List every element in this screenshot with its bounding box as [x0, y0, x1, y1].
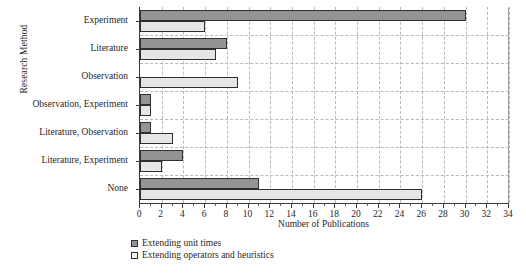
- gridline-horizontal: [140, 63, 509, 64]
- gridline-vertical: [357, 7, 358, 203]
- gridline-horizontal: [140, 175, 509, 176]
- x-tick-label: 16: [308, 209, 318, 219]
- x-minor-tick: [410, 203, 411, 206]
- x-tick-label: 6: [202, 209, 207, 219]
- y-tick-label: None: [107, 183, 128, 193]
- gridline-vertical: [227, 7, 228, 203]
- legend-swatch-light: [131, 252, 138, 259]
- y-tick-label: Literature, Experiment: [41, 155, 128, 165]
- chart-legend: Extending unit times Extending operators…: [131, 238, 274, 261]
- y-tick-mark: [136, 189, 140, 190]
- y-tick-mark: [136, 133, 140, 134]
- x-tick-label: 18: [330, 209, 340, 219]
- bar-extending-operators-and-heuristics: [140, 105, 151, 116]
- bar-extending-unit-times: [140, 38, 227, 49]
- y-tick-label: Literature: [91, 43, 128, 53]
- x-tick-mark: [443, 203, 444, 208]
- x-tick-label: 20: [351, 209, 361, 219]
- x-tick-label: 34: [503, 209, 513, 219]
- x-tick-mark: [291, 203, 292, 208]
- x-minor-tick: [172, 203, 173, 206]
- bar-extending-unit-times: [140, 10, 466, 21]
- y-tick-label: Literature, Observation: [39, 127, 128, 137]
- legend-item-1[interactable]: Extending operators and heuristics: [131, 250, 274, 262]
- gridline-vertical: [162, 7, 163, 203]
- x-minor-tick: [432, 203, 433, 206]
- x-tick-mark: [486, 203, 487, 208]
- gridline-horizontal: [140, 35, 509, 36]
- plot-frame: [140, 7, 509, 203]
- bar-extending-operators-and-heuristics: [140, 161, 162, 172]
- gridline-horizontal: [140, 147, 509, 148]
- bar-extending-unit-times: [140, 178, 259, 189]
- gridline-vertical: [335, 7, 336, 203]
- x-tick-label: 32: [482, 209, 492, 219]
- x-minor-tick: [497, 203, 498, 206]
- x-minor-tick: [280, 203, 281, 206]
- x-tick-mark: [161, 203, 162, 208]
- bar-extending-operators-and-heuristics: [140, 49, 216, 60]
- legend-label-0: Extending unit times: [142, 238, 221, 250]
- x-minor-tick: [345, 203, 346, 206]
- x-tick-label: 22: [373, 209, 383, 219]
- y-tick-mark: [136, 21, 140, 22]
- x-tick-mark: [182, 203, 183, 208]
- gridline-vertical: [292, 7, 293, 203]
- gridline-vertical: [270, 7, 271, 203]
- gridline-vertical: [249, 7, 250, 203]
- x-minor-tick: [150, 203, 151, 206]
- bar-extending-unit-times: [140, 94, 151, 105]
- x-minor-tick: [367, 203, 368, 206]
- gridline-vertical: [466, 7, 467, 203]
- x-tick-label: 14: [286, 209, 296, 219]
- legend-label-1: Extending operators and heuristics: [142, 250, 274, 262]
- gridline-vertical: [400, 7, 401, 203]
- x-tick-label: 8: [223, 209, 228, 219]
- y-tick-mark: [136, 49, 140, 50]
- y-tick-mark: [136, 105, 140, 106]
- x-minor-tick: [258, 203, 259, 206]
- x-tick-mark: [378, 203, 379, 208]
- gridline-horizontal: [140, 91, 509, 92]
- x-tick-label: 0: [137, 209, 142, 219]
- x-axis-title: Number of Publications: [139, 219, 508, 229]
- x-tick-mark: [421, 203, 422, 208]
- bar-extending-operators-and-heuristics: [140, 77, 238, 88]
- legend-item-0[interactable]: Extending unit times: [131, 238, 274, 250]
- gridline-vertical: [509, 7, 510, 203]
- x-tick-label: 2: [158, 209, 163, 219]
- x-minor-tick: [193, 203, 194, 206]
- gridline-vertical: [422, 7, 423, 203]
- x-tick-mark: [269, 203, 270, 208]
- y-tick-label: Observation, Experiment: [32, 99, 128, 109]
- plot-area: [139, 7, 509, 204]
- x-minor-tick: [475, 203, 476, 206]
- gridline-vertical: [444, 7, 445, 203]
- y-tick-mark: [136, 161, 140, 162]
- x-tick-mark: [204, 203, 205, 208]
- gridline-horizontal: [140, 119, 509, 120]
- x-tick-mark: [139, 203, 140, 208]
- x-minor-tick: [215, 203, 216, 206]
- gridline-vertical: [205, 7, 206, 203]
- x-tick-mark: [248, 203, 249, 208]
- gridline-vertical: [314, 7, 315, 203]
- x-tick-mark: [356, 203, 357, 208]
- x-tick-label: 4: [180, 209, 185, 219]
- x-minor-tick: [454, 203, 455, 206]
- x-tick-mark: [226, 203, 227, 208]
- x-tick-mark: [508, 203, 509, 208]
- x-tick-label: 26: [416, 209, 426, 219]
- x-tick-label: 10: [243, 209, 253, 219]
- gridline-vertical: [183, 7, 184, 203]
- x-minor-tick: [389, 203, 390, 206]
- bar-extending-unit-times: [140, 122, 151, 133]
- bar-extending-unit-times: [140, 150, 183, 161]
- bar-chart-figure: Research Method ExperimentLiteratureObse…: [0, 0, 526, 273]
- bar-extending-operators-and-heuristics: [140, 189, 422, 200]
- y-tick-mark: [136, 77, 140, 78]
- x-tick-mark: [465, 203, 466, 208]
- gridline-vertical: [379, 7, 380, 203]
- legend-swatch-dark: [131, 240, 138, 247]
- x-tick-mark: [399, 203, 400, 208]
